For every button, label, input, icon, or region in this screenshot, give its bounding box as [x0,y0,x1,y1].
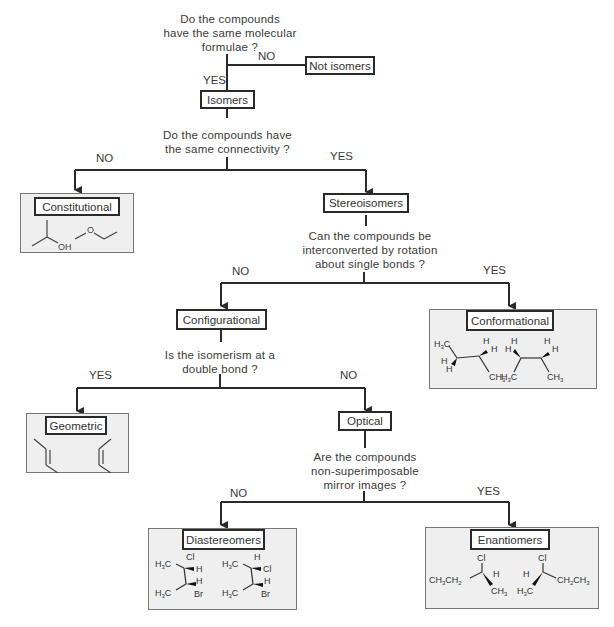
svg-text:H3C: H3C [222,588,239,599]
svg-text:CH2CH3: CH2CH3 [557,575,590,586]
node-geometric: Geometric [45,416,107,435]
svg-text:Br: Br [261,589,270,599]
question-double-bond: Is the isomerism at a double bond ? [160,348,280,376]
svg-text:H: H [483,336,490,346]
constitutional-example-structures: OH O [20,215,134,253]
svg-text:H: H [511,336,518,346]
branch-label-yes: YES [483,264,506,276]
question-line: about single bonds ? [290,257,450,271]
svg-text:H: H [446,364,453,374]
question-line: formulae ? [160,40,300,54]
node-enantiomers: Enantiomers [470,529,550,550]
geometric-example-structures [26,435,129,473]
svg-text:CH3CH2: CH3CH2 [429,575,462,586]
question-line: mirror images ? [305,478,425,492]
branch-label-no: NO [230,487,247,499]
svg-text:H3C: H3C [517,586,534,597]
question-same-formula: Do the compounds have the same molecular… [160,12,300,54]
svg-text:H: H [493,569,500,579]
branch-label-no: NO [340,369,357,381]
enantiomers-example-structures: Cl CH3CH2 H CH3 Cl H H3C CH2CH3 [425,550,599,610]
svg-text:CH3: CH3 [547,372,564,383]
question-line: interconverted by rotation [290,243,450,257]
svg-text:Cl: Cl [538,553,547,563]
svg-text:H: H [544,336,551,346]
svg-text:H3C: H3C [501,372,518,383]
node-conformational: Conformational [466,310,554,331]
conformational-example-structures: H3C HH HH CH3 HH H3C HH CH3 [429,330,597,388]
atom-label: OH [58,242,72,252]
svg-text:H3C: H3C [222,559,239,570]
question-line: double bond ? [160,362,280,376]
svg-text:H: H [552,344,559,354]
node-stereoisomers: Stereoisomers [323,193,409,213]
svg-text:H3C: H3C [155,559,172,570]
question-line: Can the compounds be [290,229,450,243]
svg-text:Br: Br [194,589,203,599]
question-same-connectivity: Do the compounds have the same connectiv… [155,128,300,156]
branch-label-no: NO [258,50,275,62]
branch-label-no: NO [232,265,249,277]
svg-text:Cl: Cl [263,564,272,574]
svg-text:H3C: H3C [434,339,451,350]
branch-label-yes: YES [89,369,112,381]
svg-text:H: H [523,569,530,579]
svg-text:Cl: Cl [477,553,486,563]
question-line: Is the isomerism at a [160,348,280,362]
question-line: Are the compounds [305,450,425,464]
question-line: Do the compounds [160,12,300,26]
question-rotation-interconversion: Can the compounds be interconverted by r… [290,229,450,271]
svg-text:H: H [254,552,261,562]
atom-label: O [87,225,94,235]
node-constitutional: Constitutional [34,197,120,216]
svg-text:H: H [491,344,498,354]
svg-text:H: H [264,576,271,586]
svg-text:H: H [196,576,203,586]
question-line: have the same molecular [160,26,300,40]
node-optical: Optical [338,411,392,431]
question-line: the same connectivity ? [155,142,300,156]
node-diastereomers: Diastereomers [182,529,265,550]
svg-text:CH3: CH3 [491,586,508,597]
node-isomers: Isomers [200,90,255,109]
question-line: non-superimposable [305,464,425,478]
node-not-isomers: Not isomers [305,56,375,75]
diastereomers-example-structures: H3C ClH H3C HBr H3C HCl H3C HBr [148,550,297,610]
svg-text:H3C: H3C [155,588,172,599]
branch-label-yes: YES [477,485,500,497]
branch-label-yes: YES [203,74,226,86]
svg-text:H: H [505,344,512,354]
node-configurational: Configurational [176,309,267,330]
question-mirror-images: Are the compounds non-superimposable mir… [305,450,425,492]
branch-label-yes: YES [330,150,353,162]
question-line: Do the compounds have [155,128,300,142]
svg-text:H: H [196,564,203,574]
svg-text:Cl: Cl [186,552,195,562]
branch-label-no: NO [96,152,113,164]
